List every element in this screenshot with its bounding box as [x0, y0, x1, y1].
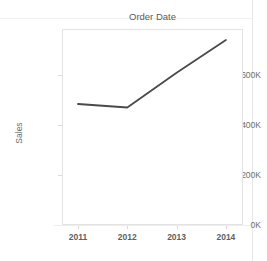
x-tick-label: 2012	[105, 232, 149, 243]
y-axis-title: Sales	[14, 105, 24, 161]
series-line-sales	[78, 40, 226, 108]
clipped-header-text	[0, 0, 267, 7]
line-chart-panel: Order Date Sales 0K200K400K600K 20112012…	[0, 0, 267, 261]
x-tick-label: 2011	[56, 232, 100, 243]
x-tick-label: 2013	[155, 232, 199, 243]
x-axis-line	[54, 225, 250, 226]
chart-title: Order Date	[62, 11, 243, 23]
x-tick-label: 2014	[204, 232, 248, 243]
plot-area	[62, 29, 243, 225]
